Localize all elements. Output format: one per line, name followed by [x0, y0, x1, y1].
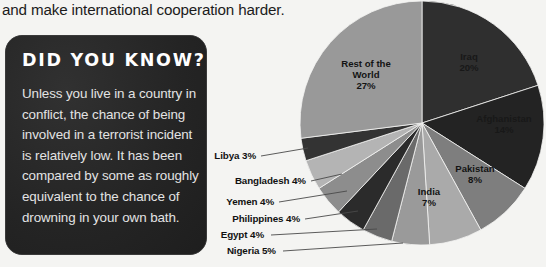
pie-slice-label-iraq: Iraq20% [459, 51, 479, 73]
pie-chart: Iraq20%Afghanistan14%Pakistan8%India7%Re… [207, 0, 546, 267]
callout-label-bangladesh: Bangladesh 4% [235, 175, 306, 186]
leader-line-nigeria [283, 243, 403, 251]
callout-label-philippines: Philippines 4% [232, 213, 300, 224]
callout-label-nigeria: Nigeria 5% [227, 245, 276, 256]
pie-chart-svg: Iraq20%Afghanistan14%Pakistan8%India7%Re… [207, 0, 546, 267]
did-you-know-body: Unless you live in a country in conflict… [22, 84, 200, 228]
callout-label-yemen: Yemen 4% [226, 196, 274, 207]
infographic-page: and make international cooperation harde… [0, 0, 546, 267]
leader-line-libya [261, 148, 308, 156]
leader-line-egypt [271, 229, 377, 235]
did-you-know-panel: DID YOU KNOW? Unless you live in a count… [5, 35, 207, 255]
callout-label-libya: Libya 3% [214, 150, 256, 161]
did-you-know-title: DID YOU KNOW? [22, 50, 206, 70]
callout-label-egypt: Egypt 4% [221, 229, 264, 240]
